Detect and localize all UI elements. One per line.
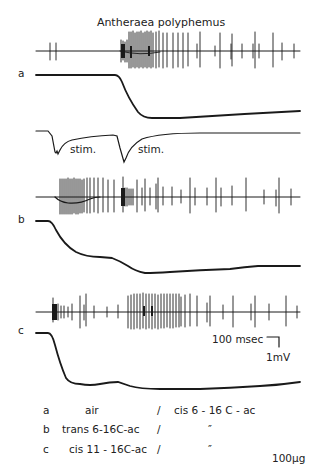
legend-first-b: trans 6-16C-ac bbox=[62, 423, 140, 435]
trace-label-b: b bbox=[18, 213, 25, 225]
scale-time-label: 100 msec bbox=[212, 333, 263, 345]
receptor-potential-b bbox=[36, 221, 300, 273]
spike-trace-c bbox=[36, 293, 300, 329]
scale-voltage-label: 1mV bbox=[266, 351, 290, 363]
receptor-potential-a bbox=[36, 75, 300, 118]
legend-second-c: ″ bbox=[208, 443, 212, 455]
stimulus-label-2: stim. bbox=[138, 143, 164, 155]
legend-first-c: cis 11 - 16C-ac bbox=[69, 443, 147, 455]
scale-bar bbox=[267, 337, 279, 347]
legend-second-b: ″ bbox=[208, 423, 212, 435]
legend-sep-b: / bbox=[157, 423, 161, 435]
trace-label-c: c bbox=[18, 324, 24, 336]
legend-second-a: cis 6 - 16 C - ac bbox=[174, 404, 255, 416]
trace-label-a: a bbox=[18, 67, 24, 79]
legend-key-b: b bbox=[43, 423, 50, 435]
stimulus-label-1: stim. bbox=[70, 143, 96, 155]
legend-sep-c: / bbox=[157, 443, 161, 455]
spike-trace-b bbox=[36, 177, 300, 214]
legend-sep-a: / bbox=[157, 404, 161, 416]
legend-first-a: air bbox=[85, 404, 99, 416]
figure: Antheraea polyphemus bbox=[0, 0, 322, 473]
recordings-plot bbox=[0, 0, 322, 473]
legend-key-c: c bbox=[43, 443, 49, 455]
legend-dose: 100µg bbox=[272, 452, 305, 464]
spike-trace-a bbox=[36, 31, 300, 68]
legend-key-a: a bbox=[43, 404, 49, 416]
